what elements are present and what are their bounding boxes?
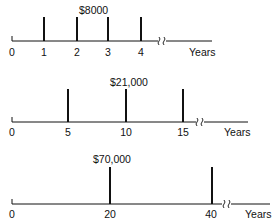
timeline-3-tick-label-2: 40 (205, 208, 217, 220)
timeline-3-amount-label: $70,000 (93, 153, 131, 165)
timeline-2: $21,000 0 5 10 15 Years (9, 76, 250, 138)
timeline-1-tick-label-4: 4 (138, 46, 144, 58)
cash-flow-timelines-diagram: $8000 0 1 2 3 4 Years $21,000 0 5 10 15 … (0, 0, 278, 224)
timeline-1-origin-label: 0 (9, 46, 15, 58)
timeline-2-amount-label: $21,000 (110, 76, 148, 88)
timeline-2-origin-label: 0 (9, 126, 15, 138)
timeline-2-tick-label-2: 10 (120, 126, 132, 138)
timeline-2-tick-label-3: 15 (177, 126, 189, 138)
timeline-3-unit-label: Years (245, 208, 271, 220)
timeline-1-tick-label-3: 3 (105, 46, 111, 58)
timeline-2-unit-label: Years (224, 126, 250, 138)
timeline-2-break-icon (196, 118, 203, 126)
timeline-3-break-icon (223, 200, 230, 208)
timeline-1-break-icon (158, 37, 165, 45)
timeline-3-tick-label-1: 20 (104, 208, 116, 220)
timeline-1-amount-label: $8000 (79, 4, 108, 16)
timeline-1: $8000 0 1 2 3 4 Years (9, 4, 215, 58)
timeline-2-tick-label-1: 5 (65, 126, 71, 138)
timeline-3: $70,000 0 20 40 Years (9, 153, 271, 220)
timeline-1-tick-label-1: 1 (41, 46, 47, 58)
timeline-1-unit-label: Years (189, 46, 215, 58)
timeline-3-origin-label: 0 (9, 208, 15, 220)
timeline-1-tick-label-2: 2 (74, 46, 80, 58)
